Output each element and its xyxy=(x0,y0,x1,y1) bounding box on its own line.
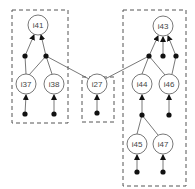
node-label: i37 xyxy=(21,80,32,89)
node-label: i41 xyxy=(33,21,44,30)
junction-dot xyxy=(166,112,171,117)
node-i27: i27 xyxy=(87,74,107,94)
node-i46: i46 xyxy=(159,74,179,94)
junction-dot xyxy=(139,112,144,117)
junction-dot xyxy=(160,53,165,58)
junction-dot xyxy=(94,110,99,115)
node-label: i45 xyxy=(132,140,143,149)
node-label: i27 xyxy=(92,80,103,89)
junction-dot xyxy=(22,53,27,58)
hypergraph-diagram: i41 i37 i38 i27 i43 i44 i46 i45 i47 xyxy=(0,0,195,189)
node-label: i43 xyxy=(158,22,169,31)
group-box-right xyxy=(123,10,186,186)
node-i44: i44 xyxy=(132,74,152,94)
node-i37: i37 xyxy=(16,74,36,94)
junction-dot xyxy=(134,169,139,174)
node-label: i46 xyxy=(164,80,175,89)
node-label: i47 xyxy=(158,140,169,149)
junction-dots xyxy=(22,53,178,174)
junction-dot xyxy=(43,53,48,58)
node-i38: i38 xyxy=(44,74,64,94)
junction-dot xyxy=(51,111,56,116)
node-i47: i47 xyxy=(153,134,173,154)
junction-dot xyxy=(146,53,151,58)
node-i41: i41 xyxy=(28,15,48,35)
junction-dot xyxy=(160,169,165,174)
junction-dot xyxy=(22,111,27,116)
node-i45: i45 xyxy=(127,134,147,154)
node-label: i44 xyxy=(137,80,148,89)
node-label: i38 xyxy=(49,80,60,89)
junction-dot xyxy=(173,53,178,58)
node-i43: i43 xyxy=(153,16,173,36)
